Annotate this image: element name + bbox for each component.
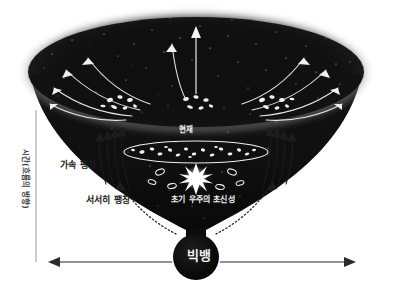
early-universe-supernova-label: 초기 우주의 초신성 — [171, 196, 235, 204]
slow-expansion-label: 서서히 팽창 — [86, 196, 130, 205]
time-axis-label: 시간(흐름의 방향) — [21, 140, 29, 218]
cosmology-expansion-figure: 시간(흐름의 방향) 가속 팽창 서서히 팽창 현재 초기 우주의 초신성 빅뱅 — [0, 0, 393, 295]
present-label: 현재 — [179, 126, 193, 134]
cone-mouth — [18, 10, 374, 134]
accelerating-expansion-label: 가속 팽창 — [60, 161, 96, 170]
big-bang-label: 빅뱅 — [187, 249, 211, 262]
